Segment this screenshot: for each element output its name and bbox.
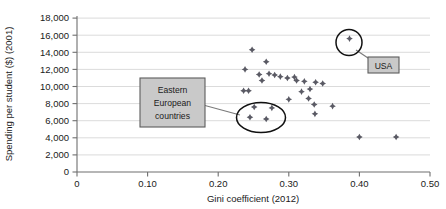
data-point-group <box>240 35 399 140</box>
data-point <box>393 134 400 141</box>
data-point <box>305 95 312 102</box>
data-point <box>251 104 258 111</box>
x-axis <box>77 172 430 177</box>
y-tick-label: 2,000 <box>45 149 69 160</box>
eastern-europe-ellipse <box>237 103 286 133</box>
data-point <box>247 114 254 121</box>
x-tick-label: 0.10 <box>138 178 157 189</box>
data-point <box>245 87 252 94</box>
data-point <box>271 72 278 79</box>
y-tick-label: 8,000 <box>45 98 69 109</box>
y-tick-label: 12,000 <box>40 64 69 75</box>
data-point <box>284 75 291 82</box>
data-point <box>312 79 319 86</box>
data-point <box>319 80 326 87</box>
usa-label: USA <box>375 61 393 71</box>
data-point <box>286 96 293 103</box>
scatter-plot: 18,000 16,000 14,000 12,000 10,000 8,000… <box>0 0 446 209</box>
data-point <box>312 111 319 118</box>
data-point <box>266 70 273 77</box>
data-point <box>277 73 284 80</box>
data-point <box>301 78 308 85</box>
x-axis-title: Gini coefficient (2012) <box>207 193 299 204</box>
chart-figure: 18,000 16,000 14,000 12,000 10,000 8,000… <box>0 0 446 209</box>
y-tick-label: 18,000 <box>40 12 69 23</box>
data-point <box>242 66 249 73</box>
gridlines <box>77 18 430 155</box>
data-point <box>298 88 305 95</box>
y-tick-labels: 18,000 16,000 14,000 12,000 10,000 8,000… <box>40 12 69 177</box>
y-tick-label: 4,000 <box>45 132 69 143</box>
data-point <box>356 134 363 141</box>
y-axis <box>73 16 78 172</box>
x-tick-label: 0.20 <box>209 178 228 189</box>
y-tick-label: 10,000 <box>40 81 69 92</box>
data-point <box>346 35 353 42</box>
data-point <box>263 116 270 123</box>
y-tick-label: 0 <box>64 166 69 177</box>
x-tick-label: 0 <box>74 178 79 189</box>
y-axis-title: Spending per student ($) (2001) <box>3 27 14 162</box>
data-point <box>263 58 270 65</box>
usa-circle <box>336 30 362 56</box>
y-tick-label: 14,000 <box>40 47 69 58</box>
data-point <box>256 71 263 78</box>
x-tick-label: 0.50 <box>421 178 440 189</box>
eastern-europe-label-line-3: countries <box>155 111 190 121</box>
y-tick-label: 6,000 <box>45 115 69 126</box>
data-point <box>259 77 266 84</box>
y-tick-label: 16,000 <box>40 30 69 41</box>
eastern-europe-label-line-2: European <box>154 98 191 108</box>
data-point <box>311 101 318 108</box>
x-tick-label: 0.40 <box>350 178 369 189</box>
usa-annotation: USA <box>336 30 399 74</box>
x-tick-label: 0.30 <box>280 178 299 189</box>
eastern-europe-label-line-1: Eastern <box>158 85 188 95</box>
x-tick-labels: 0 0.10 0.20 0.30 0.40 0.50 <box>74 178 439 189</box>
